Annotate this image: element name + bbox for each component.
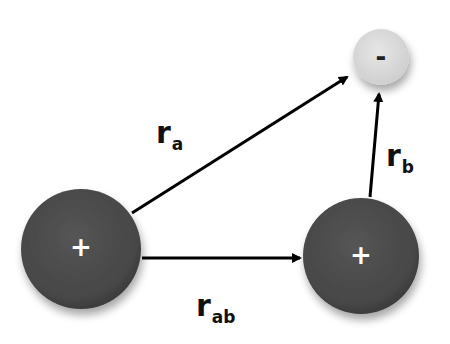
label-r-b-sub: b: [402, 157, 414, 177]
vector-r-b-arrow: [370, 94, 379, 197]
label-r-ab-sub: ab: [212, 307, 236, 327]
label-r-a: ra: [156, 118, 183, 148]
diagram-canvas: + + - ra rb rab: [0, 0, 450, 344]
negative-charge-symbol: -: [368, 42, 394, 72]
left-charge-symbol: +: [68, 232, 94, 262]
label-r-b-main: r: [386, 138, 401, 173]
label-r-ab: rab: [196, 291, 235, 321]
label-r-b: rb: [386, 141, 414, 171]
label-r-a-main: r: [156, 115, 171, 150]
right-charge-symbol: +: [348, 240, 374, 270]
label-r-ab-main: r: [196, 288, 211, 323]
label-r-a-sub: a: [172, 134, 183, 154]
